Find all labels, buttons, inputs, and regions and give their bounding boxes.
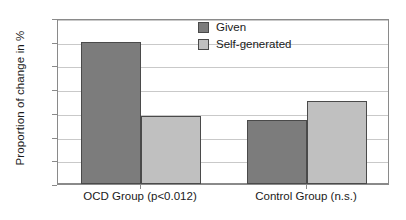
- legend-item-given[interactable]: Given: [198, 19, 291, 36]
- legend: Given Self-generated: [196, 17, 295, 56]
- x-tick-mark: [140, 185, 141, 189]
- x-category-label: OCD Group (p<0.012): [83, 190, 196, 202]
- legend-swatch-self-generated-icon: [198, 39, 209, 50]
- bar-chart: Proportion of change in % 02468101214 OC…: [0, 0, 406, 220]
- legend-swatch-given-icon: [198, 22, 209, 33]
- x-tick-mark: [306, 185, 307, 189]
- bar-self-generated-group-2[interactable]: [307, 101, 367, 184]
- bar-given-group-1[interactable]: [81, 42, 141, 184]
- y-tick-mark: [52, 185, 57, 186]
- bar-given-group-2[interactable]: [247, 120, 307, 184]
- legend-item-self-generated[interactable]: Self-generated: [198, 36, 291, 53]
- bar-self-generated-group-1[interactable]: [141, 116, 201, 184]
- legend-label-self-generated: Self-generated: [216, 38, 291, 51]
- y-axis-title: Proportion of change in %: [14, 8, 26, 188]
- x-category-label: Control Group (n.s.): [255, 190, 357, 202]
- legend-label-given: Given: [216, 21, 246, 34]
